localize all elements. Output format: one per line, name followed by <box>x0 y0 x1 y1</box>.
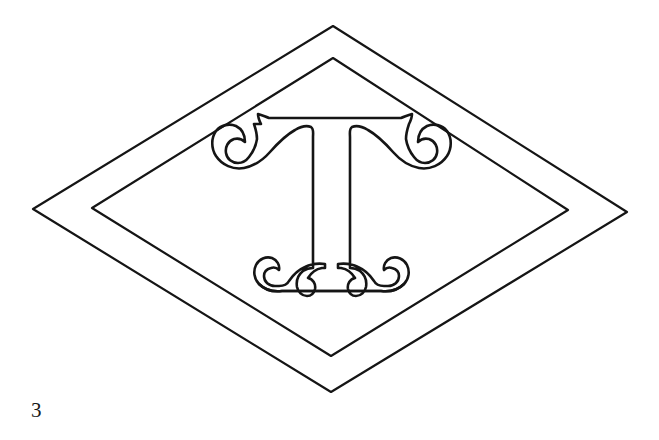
figure-drawing <box>0 0 659 440</box>
paper-background <box>0 0 659 440</box>
figure-page: 3 <box>0 0 659 440</box>
figure-caption-number: 3 <box>31 400 42 421</box>
